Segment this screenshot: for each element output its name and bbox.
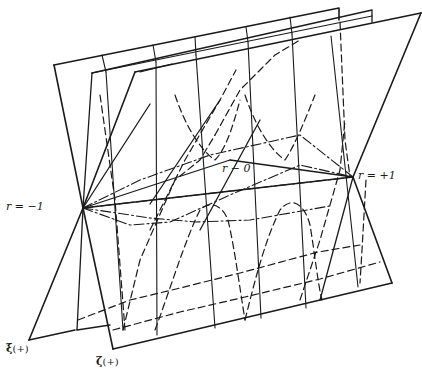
label-r-zero: r − 0 [222, 162, 250, 175]
xi-plane [29, 8, 339, 340]
label-zeta: ζ(+) [96, 355, 119, 368]
diagram-canvas [0, 0, 422, 371]
label-xi: ξ(+) [6, 342, 29, 355]
zeta-sign: (+) [103, 356, 119, 367]
top-strip-lines [92, 16, 372, 73]
dash-dot-lines [83, 135, 353, 225]
label-r-plus-1: r = +1 [358, 169, 396, 182]
label-r-minus-1: r = −1 [6, 200, 44, 213]
xi-sign: (+) [13, 343, 29, 354]
